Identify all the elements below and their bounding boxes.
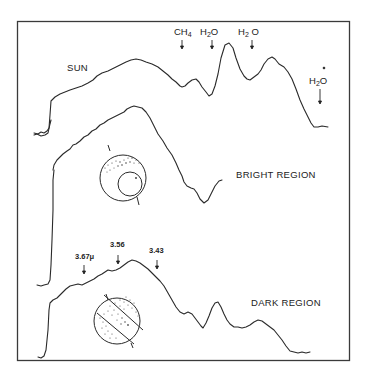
dark-region-label: DARK REGION <box>251 297 321 308</box>
bright-region-label: BRIGHT REGION <box>236 169 316 180</box>
sun-trace <box>34 43 328 134</box>
wavelength-3-43: 3.43 <box>149 246 164 255</box>
dark-region-trace <box>38 260 310 358</box>
sun-arrows <box>181 40 325 104</box>
h2o-marker-3: H2O <box>309 75 327 87</box>
bright-region-rise <box>37 170 54 286</box>
bright-region-disk-icon <box>100 145 146 205</box>
spectra-plot <box>0 0 366 379</box>
dark-region-disk-icon <box>94 294 143 348</box>
wavelength-3-56: 3.56 <box>110 240 125 249</box>
sun-label: SUN <box>67 62 88 73</box>
h2o-marker-2: H2 O <box>238 26 259 38</box>
bright-region-trace <box>34 106 222 203</box>
ch4-marker: CH4 <box>174 26 192 38</box>
h2o-marker-1: H2O <box>200 26 218 38</box>
spectra-figure: SUN BRIGHT REGION DARK REGION CH4 H2O H2… <box>0 0 366 379</box>
wavelength-3-67: 3.67μ <box>75 252 94 261</box>
